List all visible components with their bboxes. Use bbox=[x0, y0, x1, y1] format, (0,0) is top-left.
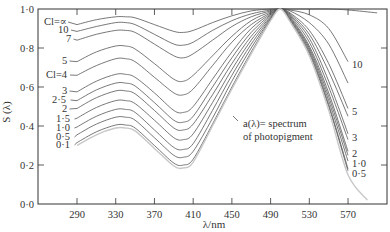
x-tick-label: 490 bbox=[263, 209, 279, 220]
label-leader bbox=[70, 91, 78, 92]
label-leader bbox=[68, 22, 77, 25]
label-leader bbox=[75, 135, 78, 137]
y-tick-label: 0·6 bbox=[20, 82, 34, 93]
x-tick-label: 530 bbox=[301, 209, 317, 220]
curve-line bbox=[77, 9, 348, 169]
curve-line bbox=[77, 9, 348, 171]
curve-label-right: 10 bbox=[352, 59, 363, 70]
plot-frame bbox=[38, 9, 387, 204]
curve-label-left: 0·1 bbox=[56, 139, 70, 150]
curve-line bbox=[77, 9, 377, 33]
x-tick-label: 410 bbox=[185, 209, 201, 220]
pigment-annotation: a(λ)= spectrum of photopigment bbox=[233, 116, 313, 142]
left-curve-labels: Cl=∝1075Cl=432·521·51·00·50·1 bbox=[44, 16, 77, 150]
x-tick-label: 570 bbox=[340, 209, 356, 220]
spectral-sensitivity-chart: 290330370410450490530570 0·00·20·40·60·8… bbox=[0, 0, 390, 232]
curve-label-right: 0·5 bbox=[352, 168, 366, 179]
x-tick-label: 290 bbox=[69, 209, 85, 220]
label-leader bbox=[75, 118, 78, 119]
right-curve-labels: 105321·00·5 bbox=[352, 59, 366, 179]
label-leader bbox=[75, 143, 78, 145]
label-leader bbox=[70, 108, 78, 109]
curves bbox=[77, 9, 377, 200]
label-leader bbox=[75, 127, 78, 128]
x-tick-label: 370 bbox=[147, 209, 163, 220]
label-leader bbox=[71, 30, 77, 31]
y-tick-label: 0·2 bbox=[20, 160, 34, 171]
curve-label-left: 7 bbox=[66, 33, 71, 44]
x-axis-title: λ/nm bbox=[203, 218, 226, 230]
label-leader bbox=[71, 100, 78, 101]
x-tick-label: 330 bbox=[108, 209, 124, 220]
curve-label-right: 5 bbox=[352, 106, 357, 117]
y-tick-label: 0·0 bbox=[20, 199, 34, 210]
annotation-line-2: of photopigment bbox=[243, 131, 313, 142]
curve-label-left: 5 bbox=[62, 55, 67, 66]
y-tick-label: 0·8 bbox=[20, 43, 34, 54]
x-tick-label: 450 bbox=[224, 209, 240, 220]
annotation-line-1: a(λ)= spectrum bbox=[243, 118, 307, 130]
curve-label-left: Cl=4 bbox=[46, 69, 68, 80]
label-leader bbox=[70, 61, 78, 62]
annotation-pointer bbox=[233, 116, 238, 121]
y-tick-label: 1·0 bbox=[20, 4, 34, 15]
y-tick-label: 0·4 bbox=[20, 121, 35, 132]
curve-label-right: 3 bbox=[352, 132, 357, 143]
label-leader bbox=[74, 39, 78, 40]
y-axis-title: S (λ) bbox=[0, 101, 13, 123]
